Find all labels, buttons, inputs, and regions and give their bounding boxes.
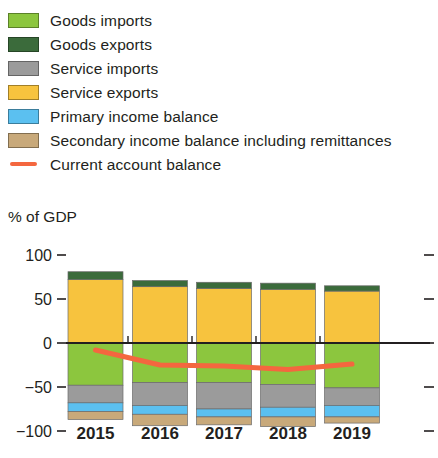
bar-segment bbox=[261, 289, 316, 343]
bar-segment bbox=[261, 343, 316, 384]
bar-segment bbox=[68, 412, 123, 420]
x-tick-label: 2016 bbox=[141, 424, 179, 443]
x-axis-tick-labels: 20152016201720182019 bbox=[77, 424, 371, 443]
legend-swatch-primary-income-balance bbox=[8, 109, 39, 124]
bar-segment bbox=[133, 287, 188, 343]
legend-label-service-imports: Service imports bbox=[50, 60, 158, 77]
bar-series-group bbox=[68, 272, 380, 427]
bar-segment bbox=[68, 280, 123, 343]
bar-segment bbox=[197, 383, 252, 409]
legend-line-current-account-balance bbox=[10, 162, 37, 166]
legend-item-service-imports: Service imports bbox=[8, 56, 430, 80]
legend-item-service-exports: Service exports bbox=[8, 80, 430, 104]
bar-segment bbox=[197, 343, 252, 383]
legend-label-service-exports: Service exports bbox=[50, 84, 158, 101]
bar-segment bbox=[133, 405, 188, 414]
bar-segment bbox=[197, 288, 252, 343]
bar-segment bbox=[325, 291, 380, 343]
y-tick-label: 100 bbox=[25, 247, 52, 264]
bar-segment bbox=[68, 403, 123, 412]
y-axis-title: % of GDP bbox=[8, 208, 77, 226]
legend-item-current-account-balance: Current account balance bbox=[8, 152, 430, 176]
legend-label-goods-imports: Goods imports bbox=[50, 12, 152, 29]
chart-plot-area: 100500−50−100 20152016201720182019 bbox=[0, 236, 438, 458]
legend-swatch-service-exports bbox=[8, 85, 39, 100]
legend-label-goods-exports: Goods exports bbox=[50, 36, 152, 53]
y-tick-label: 0 bbox=[43, 335, 52, 352]
legend-item-goods-exports: Goods exports bbox=[8, 32, 430, 56]
legend-item-primary-income-balance: Primary income balance bbox=[8, 104, 430, 128]
legend-swatch-goods-imports bbox=[8, 13, 39, 28]
bar-segment bbox=[325, 388, 380, 406]
y-tick-label: −50 bbox=[25, 379, 52, 396]
x-tick-label: 2018 bbox=[269, 424, 307, 443]
chart-legend: Goods imports Goods exports Service impo… bbox=[8, 8, 430, 176]
y-tick-label: 50 bbox=[34, 291, 52, 308]
bar-segment bbox=[133, 281, 188, 287]
legend-item-goods-imports: Goods imports bbox=[8, 8, 430, 32]
x-tick-label: 2017 bbox=[205, 424, 243, 443]
bar-segment bbox=[197, 409, 252, 417]
bar-segment bbox=[133, 383, 188, 406]
x-tick-label: 2015 bbox=[77, 424, 115, 443]
stacked-bar-chart: 100500−50−100 20152016201720182019 bbox=[0, 236, 438, 458]
x-tick-label: 2019 bbox=[333, 424, 371, 443]
legend-swatch-service-imports bbox=[8, 61, 39, 76]
legend-label-current-account-balance: Current account balance bbox=[50, 156, 221, 173]
legend-label-primary-income-balance: Primary income balance bbox=[50, 108, 218, 125]
y-tick-label: −100 bbox=[16, 423, 52, 440]
bar-segment bbox=[197, 282, 252, 288]
legend-item-secondary-income-balance: Secondary income balance including remit… bbox=[8, 128, 430, 152]
bar-segment bbox=[325, 286, 380, 291]
bar-segment bbox=[261, 384, 316, 407]
legend-swatch-goods-exports bbox=[8, 37, 39, 52]
legend-swatch-secondary-income-balance bbox=[8, 133, 39, 148]
legend-label-secondary-income-balance: Secondary income balance including remit… bbox=[50, 132, 391, 149]
bar-segment bbox=[68, 385, 123, 403]
bar-segment bbox=[325, 405, 380, 416]
bar-segment bbox=[261, 407, 316, 417]
bar-segment bbox=[68, 272, 123, 280]
bar-segment bbox=[325, 417, 380, 423]
bar-segment bbox=[261, 283, 316, 289]
y-axis-tick-labels: 100500−50−100 bbox=[16, 247, 52, 440]
